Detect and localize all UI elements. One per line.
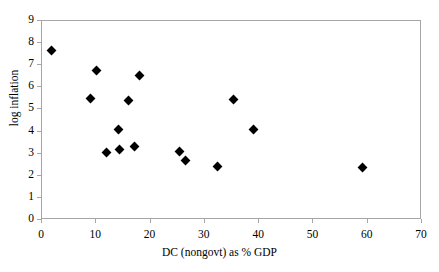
y-tick-label-wrap: 4: [0, 125, 34, 137]
data-point: [135, 70, 145, 80]
x-tick-label: 60: [361, 228, 373, 240]
x-tick-label: 20: [144, 228, 156, 240]
y-tick-label: 7: [4, 58, 34, 70]
x-tick-label: 40: [252, 228, 264, 240]
x-tick-label-wrap: 10: [75, 224, 115, 242]
x-tick-label: 70: [415, 228, 427, 240]
y-tick-label-wrap: 7: [0, 58, 34, 70]
data-point: [124, 95, 134, 105]
x-tick-mark: [150, 219, 151, 223]
x-tick-label-wrap: 50: [292, 224, 332, 242]
y-tick-label: 4: [4, 125, 34, 137]
x-tick-mark: [312, 219, 313, 223]
y-tick-label: 3: [4, 147, 34, 159]
x-tick-label: 0: [38, 228, 44, 240]
x-tick-mark: [204, 219, 205, 223]
x-tick-mark: [95, 219, 96, 223]
x-tick-label-wrap: 30: [184, 224, 224, 242]
x-axis-title: DC (nongovt) as % GDP: [0, 246, 439, 258]
y-tick-label-wrap: 8: [0, 36, 34, 48]
data-points-layer: [42, 21, 420, 218]
data-point: [175, 146, 185, 156]
y-tick-label-wrap: 1: [0, 191, 34, 203]
x-tick-label-wrap: 40: [238, 224, 278, 242]
data-point: [114, 144, 124, 154]
x-tick-mark: [258, 219, 259, 223]
plot-area: [41, 20, 421, 219]
y-tick-label: 5: [4, 102, 34, 114]
x-tick-mark: [367, 219, 368, 223]
data-point: [249, 124, 259, 134]
y-tick-label: 8: [4, 36, 34, 48]
x-tick-mark: [41, 219, 42, 223]
data-point: [228, 94, 238, 104]
data-point: [86, 94, 96, 104]
data-point: [129, 142, 139, 152]
y-tick-label: 1: [4, 191, 34, 203]
data-point: [357, 162, 367, 172]
y-tick-label-wrap: 5: [0, 102, 34, 114]
y-tick-label-wrap: 6: [0, 80, 34, 92]
y-tick-label: 9: [4, 14, 34, 26]
y-tick-label: 6: [4, 80, 34, 92]
data-point: [47, 46, 57, 56]
y-tick-label-wrap: 2: [0, 169, 34, 181]
data-point: [102, 148, 112, 158]
y-tick-label-wrap: 9: [0, 14, 34, 26]
data-point: [180, 156, 190, 166]
data-point: [212, 161, 222, 171]
x-tick-label-wrap: 70: [401, 224, 439, 242]
x-tick-label: 10: [90, 228, 102, 240]
scatter-chart: log inflation 0123456789 010203040506070…: [0, 0, 439, 272]
x-tick-label: 30: [198, 228, 210, 240]
x-tick-label-wrap: 0: [21, 224, 61, 242]
y-tick-label: 0: [4, 213, 34, 225]
x-tick-label-wrap: 60: [347, 224, 387, 242]
x-tick-label: 50: [307, 228, 319, 240]
x-tick-mark: [421, 219, 422, 223]
y-tick-label-wrap: 3: [0, 147, 34, 159]
y-tick-label: 2: [4, 169, 34, 181]
x-tick-label-wrap: 20: [130, 224, 170, 242]
data-point: [113, 125, 123, 135]
data-point: [91, 65, 101, 75]
